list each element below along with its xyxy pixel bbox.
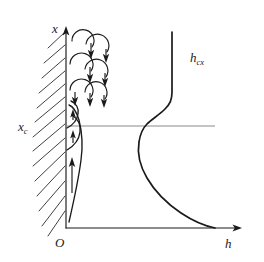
figure-canvas: x h O xc hcx	[0, 0, 264, 262]
origin-label: O	[55, 235, 65, 250]
critical-point-label: xc	[17, 119, 28, 136]
curve-label-subscript: cx	[197, 57, 205, 67]
critical-point-label-subscript: c	[24, 126, 28, 136]
hatched-wall	[33, 32, 65, 236]
curve-label: hcx	[190, 50, 204, 67]
horizontal-axis-label: h	[225, 236, 232, 251]
turbulent-eddy-group	[70, 30, 109, 108]
boundary-layer-figure: x h O xc hcx	[0, 0, 264, 262]
laminar-boundary-layer-group	[67, 101, 82, 222]
vertical-axis-label: x	[51, 21, 58, 36]
